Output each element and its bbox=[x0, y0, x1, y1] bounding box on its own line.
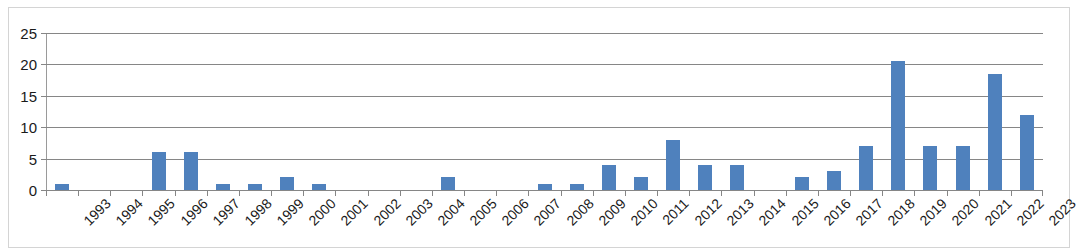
x-axis-tick-label: 1997 bbox=[210, 196, 242, 228]
x-axis-tick-label: 2021 bbox=[982, 196, 1014, 228]
bar-2005 bbox=[441, 177, 455, 190]
x-axis-tick-label: 2003 bbox=[403, 196, 435, 228]
y-tick-0 bbox=[41, 190, 47, 191]
bar-2021 bbox=[956, 146, 970, 190]
bar-2012 bbox=[666, 140, 680, 190]
y-tick-20 bbox=[41, 64, 47, 65]
x-axis-tick-label: 2010 bbox=[628, 196, 660, 228]
y-axis-tick-label: 10 bbox=[7, 120, 37, 135]
bar-2009 bbox=[570, 184, 584, 190]
bar-2022 bbox=[988, 74, 1002, 190]
x-axis-tick-label: 1994 bbox=[113, 196, 145, 228]
bar-2017 bbox=[827, 171, 841, 190]
x-axis-tick-label: 1996 bbox=[178, 196, 210, 228]
x-axis-tick-label: 1993 bbox=[81, 196, 113, 228]
x-axis-tick-label: 2001 bbox=[338, 196, 370, 228]
bar-1993 bbox=[55, 184, 69, 190]
bar-2001 bbox=[312, 184, 326, 190]
x-axis-tick-label: 2007 bbox=[531, 196, 563, 228]
x-axis-tick-label: 2002 bbox=[371, 196, 403, 228]
y-axis-tick-label: 0 bbox=[7, 183, 37, 198]
x-axis-tick-label: 1998 bbox=[242, 196, 274, 228]
x-axis-tick-label: 2008 bbox=[564, 196, 596, 228]
y-axis-tick-label: 5 bbox=[7, 151, 37, 166]
x-axis-tick-label: 2019 bbox=[917, 196, 949, 228]
x-axis-tick-label: 2005 bbox=[467, 196, 499, 228]
bar-1997 bbox=[184, 152, 198, 190]
x-axis-labels: 1993199419951996199719981999200020012002… bbox=[46, 196, 1043, 250]
x-axis-tick-label: 2017 bbox=[853, 196, 885, 228]
bar-1996 bbox=[152, 152, 166, 190]
bar-2023 bbox=[1020, 115, 1034, 190]
bar-2000 bbox=[280, 177, 294, 190]
x-axis-tick-label: 2009 bbox=[596, 196, 628, 228]
x-axis-tick-label: 2015 bbox=[789, 196, 821, 228]
x-axis-tick-label: 1999 bbox=[274, 196, 306, 228]
x-axis-tick-label: 2011 bbox=[660, 196, 691, 227]
x-axis-tick-label: 2016 bbox=[821, 196, 853, 228]
bar-chart: 0510152025 19931994199519961997199819992… bbox=[0, 0, 1079, 250]
bar-2008 bbox=[538, 184, 552, 190]
x-axis-tick-label: 1995 bbox=[146, 196, 178, 228]
bar-1998 bbox=[216, 184, 230, 190]
bar-2020 bbox=[923, 146, 937, 190]
bar-2016 bbox=[795, 177, 809, 190]
bar-2013 bbox=[698, 165, 712, 190]
x-axis-tick-label: 2020 bbox=[950, 196, 982, 228]
y-axis-tick-label: 20 bbox=[7, 57, 37, 72]
bars-layer bbox=[46, 33, 1043, 190]
x-axis-tick-label: 2014 bbox=[757, 196, 789, 228]
y-axis-labels: 0510152025 bbox=[0, 0, 37, 250]
x-axis-tick-label: 2004 bbox=[435, 196, 467, 228]
bar-2010 bbox=[602, 165, 616, 190]
y-tick-5 bbox=[41, 159, 47, 160]
bar-1999 bbox=[248, 184, 262, 190]
bar-2011 bbox=[634, 177, 648, 190]
y-tick-10 bbox=[41, 127, 47, 128]
x-axis-tick-label: 2006 bbox=[499, 196, 531, 228]
bar-2019 bbox=[891, 61, 905, 190]
bar-2018 bbox=[859, 146, 873, 190]
y-tick-25 bbox=[41, 33, 47, 34]
bar-2014 bbox=[730, 165, 744, 190]
x-axis-tick-label: 2012 bbox=[692, 196, 724, 228]
y-tick-15 bbox=[41, 96, 47, 97]
x-axis-tick-label: 2013 bbox=[724, 196, 756, 228]
x-axis-tick-label: 2018 bbox=[885, 196, 917, 228]
y-axis-tick-label: 25 bbox=[7, 26, 37, 41]
x-axis-tick-label: 2022 bbox=[1014, 196, 1046, 228]
x-axis-tick-label: 2000 bbox=[306, 196, 338, 228]
y-axis-tick-label: 15 bbox=[7, 88, 37, 103]
